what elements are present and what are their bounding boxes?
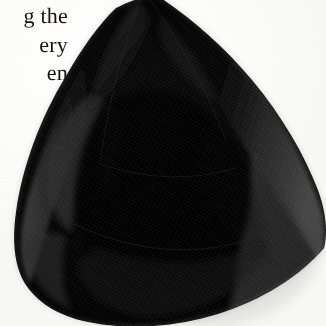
body-text-line-2: ery — [0, 31, 68, 60]
body-text-line-4: , — [0, 88, 68, 117]
body-text-column: g the ery en , — [0, 2, 68, 116]
gemstone-plate-page: g the ery en , — [0, 0, 326, 326]
body-text-line-3: en — [0, 59, 68, 88]
body-text-line-1: g the — [0, 2, 68, 31]
